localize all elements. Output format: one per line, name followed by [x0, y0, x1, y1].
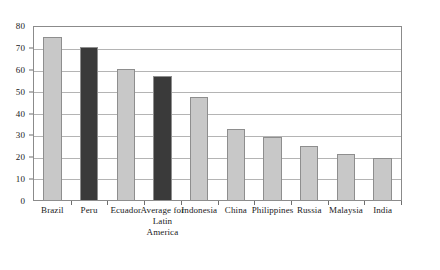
bar-slot: [300, 27, 318, 201]
bar-slot: [373, 27, 391, 201]
bar-slot: [337, 27, 355, 201]
bar-indonesia: [190, 97, 208, 201]
y-tick-label-70: 70: [16, 43, 25, 52]
bar-malaysia: [337, 154, 355, 201]
bar-peru: [80, 47, 98, 201]
x-axis: BrazilPeruEcuadorAverage for Latin Ameri…: [34, 205, 401, 267]
y-tick-label-10: 10: [16, 175, 25, 184]
x-tick-label-india: India: [356, 205, 409, 216]
bar-slot: [263, 27, 281, 201]
bar-ecuador: [117, 69, 135, 201]
bar-india: [373, 158, 391, 202]
bar-slot: [80, 27, 98, 201]
y-tick-label-50: 50: [16, 87, 25, 96]
bar-average-for-latin-america: [153, 76, 171, 201]
bar-slot: [190, 27, 208, 201]
y-tick-label-30: 30: [16, 131, 25, 140]
bar-philippines: [263, 137, 281, 201]
bar-slot: [43, 27, 61, 201]
bar-brazil: [43, 37, 61, 201]
y-tick-label-40: 40: [16, 109, 25, 118]
bar-russia: [300, 146, 318, 201]
bar-china: [227, 129, 245, 201]
y-tick-label-60: 60: [16, 65, 25, 74]
y-tick-label-80: 80: [16, 22, 25, 31]
y-tick-label-20: 20: [16, 153, 25, 162]
y-axis: 01020304050607080: [0, 26, 33, 201]
bar-slot: [153, 27, 171, 201]
bar-slot: [227, 27, 245, 201]
bar-slot: [117, 27, 135, 201]
bar-chart-figure: 01020304050607080 BrazilPeruEcuadorAvera…: [0, 0, 440, 270]
bars-container: [34, 27, 401, 201]
y-tick-label-0: 0: [20, 197, 25, 206]
